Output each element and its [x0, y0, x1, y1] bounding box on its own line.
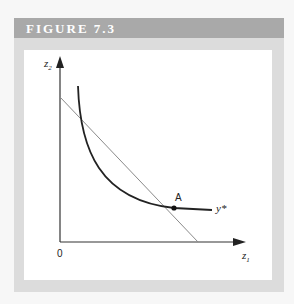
x-axis-arrow-icon: [233, 238, 246, 246]
y-axis-label: z2: [44, 57, 52, 72]
point-a-marker: [171, 205, 176, 210]
diagram-svg: [0, 0, 294, 304]
isoquant-curve: [78, 86, 212, 210]
x-axis-label: z1: [242, 249, 250, 264]
curve-label: y*: [216, 202, 226, 214]
origin-label: 0: [57, 248, 63, 259]
y-axis-arrow-icon: [56, 56, 64, 68]
point-a-label: A: [175, 192, 182, 203]
